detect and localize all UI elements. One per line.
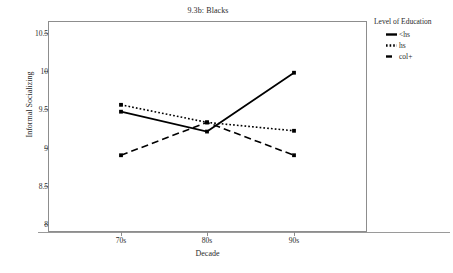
- legend: Level of Education <hs hs col+: [374, 17, 453, 62]
- legend-label-hs: hs: [399, 41, 406, 50]
- series-line-col+: [121, 122, 294, 155]
- data-point-marker: [292, 153, 296, 157]
- data-point-marker: [119, 103, 123, 107]
- legend-item-col[interactable]: col+: [386, 51, 453, 62]
- legend-item-lths[interactable]: <hs: [386, 29, 453, 40]
- x-axis-line: [38, 232, 450, 233]
- x-tick-label-90s: 90s: [269, 236, 319, 245]
- legend-key-solid-icon: [386, 30, 397, 39]
- data-point-marker: [292, 71, 296, 75]
- x-tick-label-80s: 80s: [182, 236, 232, 245]
- x-tick-label-70s: 70s: [96, 236, 146, 245]
- data-point-marker: [292, 129, 296, 133]
- chart-title: 9.3b: Blacks: [48, 6, 368, 15]
- legend-key-dashed-icon: [386, 52, 397, 61]
- data-point-marker: [119, 110, 123, 114]
- data-point-marker: [119, 153, 123, 157]
- legend-label-col: col+: [399, 52, 412, 61]
- legend-key-dotted-icon: [386, 41, 397, 50]
- x-axis-label: Decade: [48, 249, 367, 258]
- legend-label-lths: <hs: [399, 30, 410, 39]
- chart-figure: 9.3b: Blacks 10.5 10 9.5 9 8.5 8 Informa…: [0, 0, 453, 273]
- data-point-marker: [205, 120, 209, 124]
- legend-item-hs[interactable]: hs: [386, 40, 453, 51]
- plot-series-layer: [48, 21, 367, 232]
- data-point-marker: [205, 130, 209, 134]
- y-axis-label: Informal Socializing: [25, 15, 34, 195]
- y-tick-label-8: 8: [8, 220, 48, 229]
- legend-title: Level of Education: [374, 17, 453, 26]
